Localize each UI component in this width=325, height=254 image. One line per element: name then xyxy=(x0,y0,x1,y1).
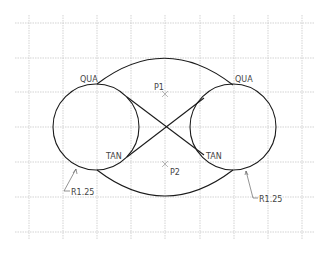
drawing-svg: QUA QUA TAN TAN P1 P2 R1.25 R1.25 xyxy=(0,0,325,254)
cad-drawing-canvas: QUA QUA TAN TAN P1 P2 R1.25 R1.25 xyxy=(0,0,325,254)
p1-label: P1 xyxy=(154,83,164,92)
tan-label-right: TAN xyxy=(205,152,222,161)
qua-label-right: QUA xyxy=(235,75,253,84)
p2-label: P2 xyxy=(170,168,180,177)
tan-label-left: TAN xyxy=(105,152,122,161)
radius-label-left: R1.25 xyxy=(71,188,94,197)
radius-label-right: R1.25 xyxy=(259,195,282,204)
qua-label-left: QUA xyxy=(80,75,98,84)
